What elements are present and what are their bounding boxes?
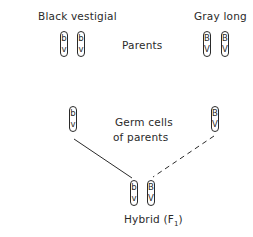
- chromosome-hybrid-black: b v: [130, 180, 138, 206]
- label-hybrid-end: ): [179, 213, 183, 225]
- allele-top: b: [131, 182, 136, 193]
- chromosome-hybrid-gray: B V: [147, 180, 155, 206]
- connector-solid-line: [74, 139, 132, 178]
- allele-bottom: V: [148, 193, 154, 204]
- allele-bottom: v: [131, 193, 136, 204]
- allele-top: B: [148, 182, 154, 193]
- label-hybrid-text: Hybrid (F: [124, 213, 174, 225]
- connector-dashed-line: [153, 136, 214, 177]
- connector-lines: [0, 0, 253, 237]
- label-hybrid: Hybrid (F1): [124, 213, 183, 228]
